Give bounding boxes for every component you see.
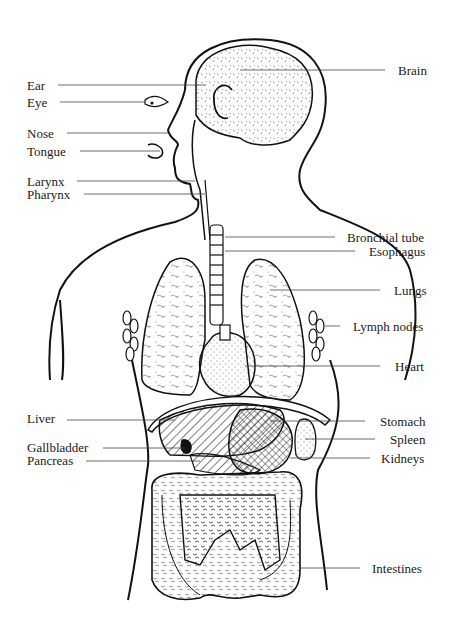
label-esophagus: Esophagus	[369, 245, 425, 258]
label-eye: Eye	[27, 96, 47, 109]
label-bronchial-tube: Bronchial tube	[347, 231, 424, 244]
label-nose: Nose	[27, 127, 54, 140]
label-tongue: Tongue	[27, 145, 66, 158]
large-intestine	[152, 472, 302, 600]
label-spleen: Spleen	[390, 433, 425, 446]
lymph-nodes-right	[309, 311, 324, 361]
label-heart: Heart	[395, 360, 424, 373]
label-brain: Brain	[398, 64, 427, 77]
label-lymph-nodes: Lymph nodes	[353, 320, 423, 333]
label-pharynx: Pharynx	[27, 188, 70, 201]
anatomy-diagram	[0, 0, 454, 629]
left-lung	[142, 258, 205, 395]
label-lungs: Lungs	[394, 284, 427, 297]
trachea	[210, 225, 223, 325]
label-ear: Ear	[27, 79, 45, 92]
lymph-nodes-left	[123, 311, 138, 361]
gallbladder-shape	[181, 440, 191, 454]
eye-shape	[145, 96, 168, 106]
label-intestines: Intestines	[372, 562, 422, 575]
label-stomach: Stomach	[380, 415, 426, 428]
pharynx-shape	[192, 120, 205, 240]
label-pancreas: Pancreas	[27, 454, 73, 467]
label-kidneys: Kidneys	[381, 452, 424, 465]
heart-shape	[200, 333, 255, 397]
label-liver: Liver	[27, 412, 55, 425]
